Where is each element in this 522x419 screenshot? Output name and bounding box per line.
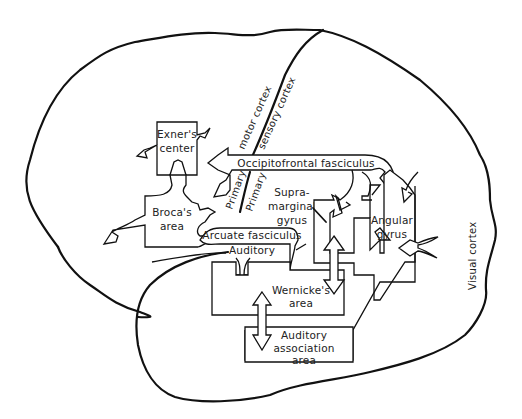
supramarginal-curve-arrow — [336, 170, 353, 210]
supramarginal-label-3: gyrus — [277, 214, 307, 226]
auditory-association-label-1: Auditory — [281, 329, 327, 341]
exners-center-label-1: Exner's — [157, 128, 197, 140]
angular-gyrus-label-2: gyrus — [377, 228, 407, 240]
arcuate-tick — [296, 244, 306, 250]
occipitofrontal-label: Occipitofrontal fasciculus — [237, 157, 374, 169]
brain-language-diagram: motor cortex sensory cortex Primary Prim… — [0, 0, 522, 419]
supramarginal-label-2: marginal — [268, 200, 316, 212]
auditory-association-label-3: area — [292, 354, 316, 366]
visual-cortex-label: Visual cortex — [467, 222, 478, 290]
supramarginal-wernicke-arrow — [324, 236, 344, 294]
auditory-association-label-2: association — [273, 342, 334, 354]
temporal-lobe-notch — [58, 247, 150, 317]
brocas-area-label-1: Broca's — [152, 206, 192, 218]
wernickes-area-label-1: Wernicke's — [272, 284, 330, 296]
angular-gyrus-label-1: Angular — [371, 214, 414, 226]
exners-center-label-2: center — [160, 142, 195, 154]
auditory-label: Auditory — [229, 244, 275, 256]
brocas-area-label-2: area — [160, 220, 184, 232]
supramarginal-label-1: Supra- — [274, 186, 310, 198]
primary-sensory-label: Primary — [244, 171, 268, 213]
wernickes-area-label-2: area — [289, 297, 313, 309]
arcuate-fasciculus-label: Arcuate fasciculus — [202, 229, 301, 241]
